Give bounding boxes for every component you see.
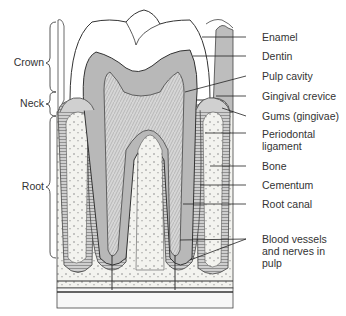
label-gingival-crevice: Gingival crevice: [262, 90, 336, 102]
label-cementum: Cementum: [262, 179, 313, 191]
region-braces: [46, 22, 56, 258]
region-label-crown: Crown: [4, 56, 44, 68]
region-label-root: Root: [4, 180, 44, 192]
label-bone: Bone: [262, 160, 287, 172]
label-periodontal-ligament: Periodontal ligament: [262, 128, 332, 152]
label-pulp-cavity: Pulp cavity: [262, 70, 313, 82]
region-label-neck: Neck: [4, 97, 44, 109]
label-enamel: Enamel: [262, 31, 298, 43]
label-dentin: Dentin: [262, 50, 292, 62]
label-blood-vessels-nerves: Blood vessels and nerves in pulp: [262, 233, 334, 269]
label-gums: Gums (gingivae): [262, 110, 339, 122]
label-root-canal: Root canal: [262, 198, 312, 210]
